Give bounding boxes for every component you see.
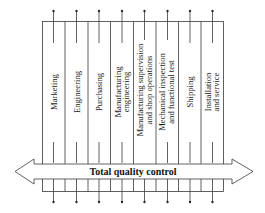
upward-flow-lines [54, 11, 213, 43]
column-label-purchasing: Purchasing [94, 72, 104, 111]
lower-flow-lines [54, 142, 213, 163]
tqc-diagram: Total quality control Marketing Engineer… [0, 0, 265, 213]
column-label-marketing: Marketing [49, 73, 59, 110]
downward-flow-lines [54, 179, 213, 202]
column-label-shipping: Shipping [185, 76, 195, 108]
column-label-manufacturing-supervision-2: and shop operations [144, 55, 154, 124]
band-label: Total quality control [89, 166, 176, 177]
bottom-dots [52, 201, 213, 203]
top-dots [52, 10, 213, 12]
column-label-engineering: Engineering [72, 70, 82, 113]
column-label-installation-2: and service [211, 72, 221, 111]
column-label-manufacturing-engineering-2: engineering [121, 71, 131, 112]
column-label-mechanical-inspection-2: and functional test [166, 60, 176, 124]
